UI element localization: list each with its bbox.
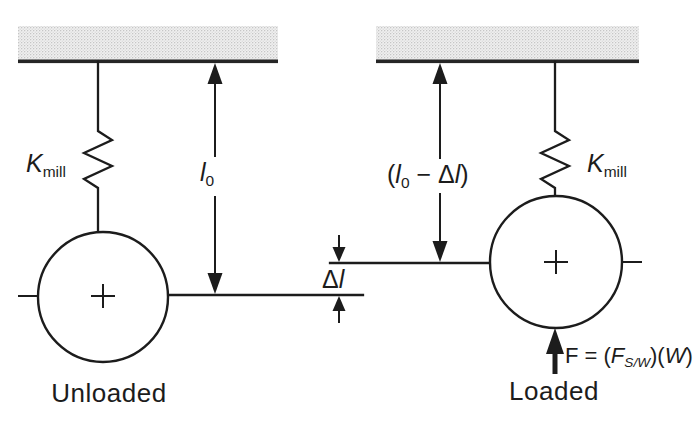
force-label: F = (FS/W)(W) bbox=[565, 345, 693, 370]
force-equals: = bbox=[578, 343, 603, 368]
unloaded-caption: Unloaded bbox=[24, 380, 194, 406]
left-spring-symbol: K bbox=[26, 149, 43, 177]
deflection-symbol: l bbox=[339, 265, 345, 293]
force-subscript: S/W bbox=[624, 355, 650, 370]
left-ceiling-hatch bbox=[18, 26, 278, 60]
loaded-length-subscript: 0 bbox=[401, 174, 410, 191]
mill-spring-diagram: Kmill l0 (l0 − Δl) Δl Kmill F = (FS/W)(W… bbox=[0, 0, 694, 421]
loaded-length-delta: Δ bbox=[438, 160, 455, 188]
left-spring-icon bbox=[84, 62, 112, 234]
right-spring-icon bbox=[541, 62, 569, 198]
loaded-length-label: (l0 − Δl) bbox=[384, 162, 472, 190]
force-mid-parens: )( bbox=[650, 343, 665, 368]
deflection-label: Δl bbox=[322, 267, 344, 292]
left-spring-subscript: mill bbox=[43, 163, 66, 180]
right-spring-subscript: mill bbox=[604, 163, 627, 180]
force-weight: W bbox=[665, 343, 686, 368]
unloaded-length-subscript: 0 bbox=[206, 172, 215, 189]
right-spring-stiffness-label: Kmill bbox=[587, 151, 627, 179]
force-lhs: F bbox=[565, 343, 578, 368]
force-arrow bbox=[546, 328, 564, 374]
left-spring-stiffness-label: Kmill bbox=[26, 151, 66, 179]
right-ceiling-hatch bbox=[376, 26, 639, 60]
right-spring-symbol: K bbox=[587, 149, 604, 177]
unloaded-length-label: l0 bbox=[197, 160, 217, 188]
force-symbol: F bbox=[611, 343, 624, 368]
force-close-paren: ) bbox=[685, 343, 692, 368]
force-open-paren: ( bbox=[604, 343, 611, 368]
right-ceiling-bar bbox=[376, 60, 639, 64]
deflection-delta: Δ bbox=[322, 265, 339, 293]
loaded-length-minus: − bbox=[410, 160, 439, 188]
loaded-caption: Loaded bbox=[469, 378, 639, 404]
left-ceiling-bar bbox=[18, 60, 278, 64]
loaded-length-close-paren: ) bbox=[460, 160, 468, 188]
